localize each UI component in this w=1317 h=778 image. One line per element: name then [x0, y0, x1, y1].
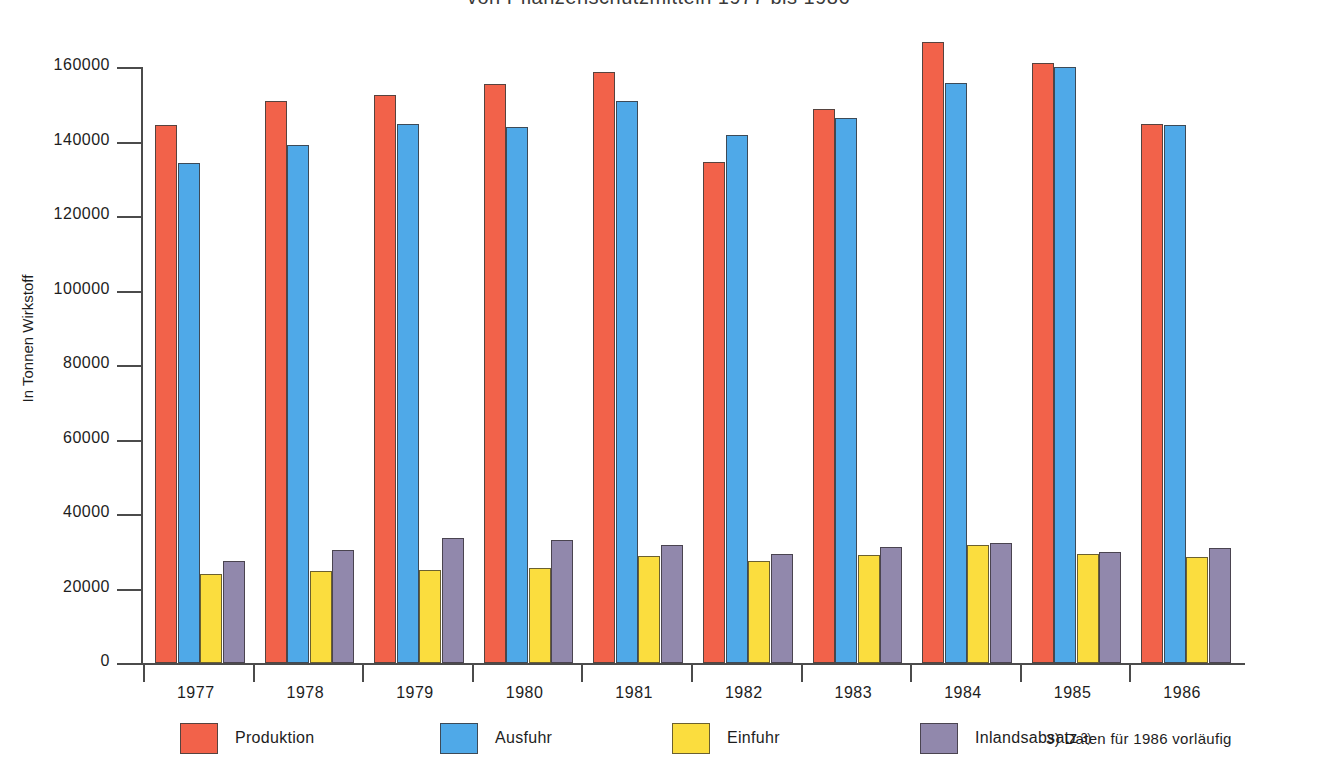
x-axis-tick-label: 1981	[599, 684, 669, 702]
bar-ausfuhr-1979	[397, 124, 419, 663]
bar-einfuhr-1983	[858, 555, 880, 663]
footnote-text: 3) Daten für 1986 vorläufig	[1046, 730, 1232, 747]
bar-produktion-1985	[1032, 63, 1054, 663]
bar-einfuhr-1978	[310, 571, 332, 663]
bar-produktion-1986	[1141, 124, 1163, 663]
y-axis-tick-label: 0	[101, 652, 110, 670]
bar-produktion-1982	[703, 162, 725, 663]
y-axis-line	[141, 67, 143, 665]
bar-produktion-1978	[265, 101, 287, 663]
y-axis-tick: 160000	[117, 67, 141, 69]
y-axis-tick: 60000	[117, 440, 141, 442]
bar-einfuhr-1985	[1077, 554, 1099, 663]
y-axis-tick: 100000	[117, 291, 141, 293]
y-axis-tick-label: 80000	[63, 354, 110, 372]
y-axis-tick-label: 140000	[54, 131, 110, 149]
bar-einfuhr-1984	[967, 545, 989, 663]
legend-item-ausfuhr[interactable]: Ausfuhr	[440, 718, 552, 758]
legend-item-produktion[interactable]: Produktion	[180, 718, 315, 758]
bar-produktion-1979	[374, 95, 396, 663]
bar-ausfuhr-1985	[1054, 67, 1076, 663]
y-axis-tick: 40000	[117, 514, 141, 516]
legend-swatch-einfuhr	[672, 723, 710, 754]
x-axis-tick	[910, 663, 912, 682]
y-axis-tick: 20000	[117, 589, 141, 591]
bar-produktion-1983	[813, 109, 835, 663]
bar-produktion-1977	[155, 125, 177, 663]
x-axis-tick	[1129, 663, 1131, 682]
chart-legend: ProduktionAusfuhrEinfuhrInlandsabsatz3) …	[0, 712, 1317, 772]
bar-ausfuhr-1977	[178, 163, 200, 663]
bar-produktion-1981	[593, 72, 615, 663]
bar-ausfuhr-1984	[945, 83, 967, 663]
legend-swatch-produktion	[180, 723, 218, 754]
legend-item-einfuhr[interactable]: Einfuhr	[672, 718, 780, 758]
x-axis-tick	[581, 663, 583, 682]
legend-label-einfuhr: Einfuhr	[727, 729, 780, 747]
x-axis-tick	[143, 663, 145, 682]
bar-ausfuhr-1980	[506, 127, 528, 663]
bar-produktion-1984	[922, 42, 944, 663]
bar-chart: von Pflanzenschutzmitteln 1977 bis 1986 …	[0, 0, 1317, 778]
x-axis-tick-label: 1986	[1147, 684, 1217, 702]
y-axis-tick-label: 40000	[63, 503, 110, 521]
bar-inlands-1985	[1099, 552, 1121, 663]
bar-inlands-1983	[880, 547, 902, 663]
bar-ausfuhr-1981	[616, 101, 638, 663]
bar-inlands-1982	[771, 554, 793, 663]
bar-einfuhr-1980	[529, 568, 551, 663]
bar-ausfuhr-1978	[287, 145, 309, 663]
x-axis-tick-label: 1980	[490, 684, 560, 702]
x-axis-tick-label: 1978	[270, 684, 340, 702]
x-axis-tick-label: 1983	[818, 684, 888, 702]
x-axis-tick	[801, 663, 803, 682]
legend-label-ausfuhr: Ausfuhr	[495, 729, 552, 747]
x-axis-tick	[1020, 663, 1022, 682]
x-axis-tick-label: 1985	[1038, 684, 1108, 702]
bar-einfuhr-1977	[200, 574, 222, 663]
bar-inlands-1979	[442, 538, 464, 663]
legend-swatch-ausfuhr	[440, 723, 478, 754]
bar-ausfuhr-1983	[835, 118, 857, 663]
bar-inlands-1980	[551, 540, 573, 663]
y-axis-tick-label: 100000	[54, 280, 110, 298]
bar-inlands-1981	[661, 545, 683, 663]
bar-produktion-1980	[484, 84, 506, 663]
y-axis-tick-label: 20000	[63, 578, 110, 596]
bar-inlands-1986	[1209, 548, 1231, 663]
y-axis-tick-label: 160000	[54, 56, 110, 74]
x-axis-tick-label: 1982	[709, 684, 779, 702]
legend-swatch-inlands	[920, 723, 958, 754]
y-axis-tick-label: 120000	[54, 205, 110, 223]
y-axis-tick: 120000	[117, 216, 141, 218]
bar-ausfuhr-1982	[726, 135, 748, 663]
y-axis-tick: 0	[117, 663, 141, 665]
x-axis-line	[131, 663, 1245, 665]
y-axis-tick-label: 60000	[63, 429, 110, 447]
x-axis-tick-label: 1977	[161, 684, 231, 702]
x-axis-tick-label: 1979	[380, 684, 450, 702]
bar-einfuhr-1986	[1186, 557, 1208, 663]
bar-einfuhr-1979	[419, 570, 441, 663]
chart-title: von Pflanzenschutzmitteln 1977 bis 1986	[0, 0, 1317, 9]
bar-inlands-1984	[990, 543, 1012, 663]
plot-area: 1600001400001200001000008000060000400002…	[143, 67, 1239, 663]
bar-inlands-1977	[223, 561, 245, 663]
x-axis-tick	[253, 663, 255, 682]
x-axis-tick	[472, 663, 474, 682]
bar-einfuhr-1981	[638, 556, 660, 663]
y-axis-tick: 80000	[117, 365, 141, 367]
y-axis-tick: 140000	[117, 142, 141, 144]
x-axis-tick-label: 1984	[928, 684, 998, 702]
bar-inlands-1978	[332, 550, 354, 663]
legend-label-produktion: Produktion	[235, 729, 315, 747]
x-axis-tick	[362, 663, 364, 682]
bar-ausfuhr-1986	[1164, 125, 1186, 663]
bar-einfuhr-1982	[748, 561, 770, 663]
x-axis-tick	[691, 663, 693, 682]
y-axis-title: In Tonnen Wirkstoff	[19, 239, 36, 439]
